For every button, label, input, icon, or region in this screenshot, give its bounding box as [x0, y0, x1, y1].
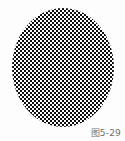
checkerboard-disc: [12, 8, 114, 127]
figure-caption: 图5-29: [91, 128, 121, 139]
figure-root: 图5-29: [0, 0, 125, 141]
